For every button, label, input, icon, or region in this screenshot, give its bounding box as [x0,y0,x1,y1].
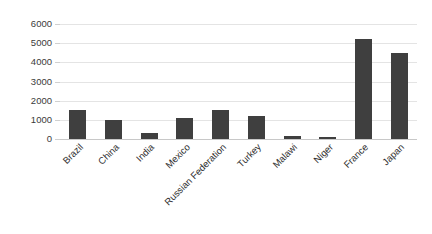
bar-china [105,120,122,139]
bar-slot [274,24,310,139]
bar-slot [60,24,96,139]
x-tick-label-turkey: Turkey [236,142,263,169]
bar-india [141,133,158,139]
x-tick-label-malawi: Malawi [271,142,299,170]
bar-brazil [69,110,86,139]
y-tick-label: 0 [47,134,52,144]
y-axis: 6000 5000 4000 3000 2000 1000 0 [0,0,60,234]
x-tick-label-japan: Japan [381,142,406,167]
x-tick-label-mexico: Mexico [164,142,192,170]
bar-malawi [284,136,301,139]
x-axis: Brazil China India Mexico Russian Federa… [60,140,417,234]
bar-slot [346,24,382,139]
x-tick-label-india: India [135,142,156,163]
bar-slot [203,24,239,139]
bar-japan [391,53,408,139]
bar-france [355,39,372,139]
y-tick-label: 5000 [31,38,52,48]
y-tick-label: 2000 [31,96,52,106]
bar-chart: 6000 5000 4000 3000 2000 1000 0 [0,0,432,234]
bars-layer [60,24,417,139]
x-tick-label-brazil: Brazil [61,142,85,166]
x-tick-label-france: France [343,142,371,170]
bar-slot [310,24,346,139]
bar-slot [381,24,417,139]
y-tick-label: 3000 [31,77,52,87]
bar-turkey [248,116,265,139]
y-tick-label: 1000 [31,115,52,125]
bar-slot [131,24,167,139]
plot-area [60,24,417,139]
bar-mexico [176,118,193,139]
bar-slot [167,24,203,139]
bar-russian-federation [212,110,229,139]
y-tick-label: 6000 [31,19,52,29]
x-tick-label-niger: Niger [312,142,335,165]
bar-niger [319,137,336,139]
bar-slot [96,24,132,139]
bar-slot [239,24,275,139]
x-tick-label-china: China [96,142,120,166]
y-tick-label: 4000 [31,58,52,68]
